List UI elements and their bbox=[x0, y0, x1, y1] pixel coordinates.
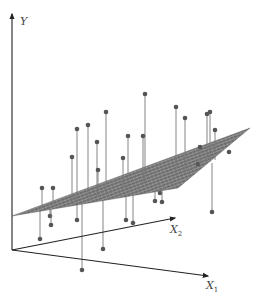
observation-point bbox=[143, 92, 148, 97]
observation-point bbox=[126, 134, 131, 139]
observation-point bbox=[38, 237, 43, 242]
regression-plane-figure: Y X1 X2 bbox=[0, 0, 261, 299]
observation-point bbox=[86, 123, 91, 128]
observation-point bbox=[208, 110, 213, 115]
observation-point bbox=[75, 218, 80, 223]
y-axis-label: Y bbox=[20, 15, 29, 28]
observation-point bbox=[210, 210, 215, 215]
x1-axis-label: X1 bbox=[205, 279, 218, 294]
x2-axis-label: X2 bbox=[169, 223, 182, 238]
observation-point bbox=[124, 218, 129, 223]
observation-point bbox=[95, 140, 100, 145]
x1-axis bbox=[12, 250, 208, 276]
observation-point bbox=[96, 168, 101, 173]
observation-point bbox=[80, 268, 85, 273]
observation-point bbox=[101, 247, 106, 252]
observation-point bbox=[51, 186, 56, 191]
observation-point bbox=[174, 105, 179, 110]
observation-point bbox=[131, 221, 136, 226]
observation-point bbox=[70, 155, 75, 160]
x2-axis bbox=[12, 218, 175, 250]
observation-point bbox=[183, 116, 188, 121]
observation-point bbox=[160, 200, 165, 205]
observation-point bbox=[75, 127, 80, 132]
observation-point bbox=[198, 145, 203, 150]
observation-point bbox=[213, 128, 218, 133]
observation-point bbox=[48, 214, 53, 219]
observation-point bbox=[141, 134, 146, 139]
observation-point bbox=[104, 110, 109, 115]
observation-point bbox=[153, 199, 158, 204]
observation-point bbox=[121, 156, 126, 161]
observation-point bbox=[49, 223, 54, 228]
residual-lines bbox=[38, 150, 232, 273]
observation-point bbox=[40, 186, 45, 191]
regression-plane bbox=[12, 128, 250, 216]
observation-point bbox=[227, 150, 232, 155]
